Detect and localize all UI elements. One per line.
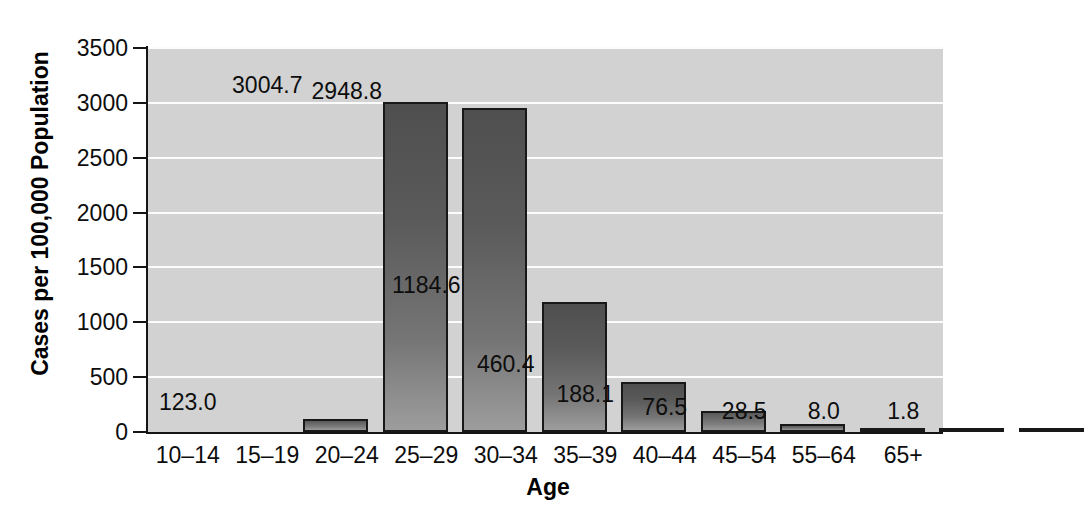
y-axis-tick-label: 3500 <box>44 37 128 60</box>
bar <box>462 108 527 432</box>
y-axis-tick-labels: 0500100015002000250030003500 <box>36 0 128 523</box>
y-axis-tick-label: 1000 <box>44 311 128 334</box>
y-axis-tick <box>133 376 146 378</box>
bar-value-label: 2948.8 <box>312 80 382 103</box>
y-axis-tick <box>133 321 146 323</box>
x-axis-category-label: 55–64 <box>792 444 856 467</box>
y-axis-tick-label: 500 <box>44 366 128 389</box>
bar <box>303 419 368 432</box>
y-axis-tick <box>133 47 146 49</box>
y-axis-tick <box>133 266 146 268</box>
x-axis-category-label: 40–44 <box>633 444 697 467</box>
x-axis-category-label: 20–24 <box>315 444 379 467</box>
gridline <box>148 47 943 49</box>
bar-value-label: 188.1 <box>556 383 614 406</box>
y-axis-tick-label: 2500 <box>44 146 128 169</box>
bar <box>780 424 845 432</box>
x-axis-category-label: 10–14 <box>156 444 220 467</box>
y-axis-tick-label: 1500 <box>44 256 128 279</box>
bar <box>939 428 1004 432</box>
y-axis-tick <box>133 431 146 433</box>
bar-value-label: 123.0 <box>159 391 217 414</box>
y-axis-tick-label: 2000 <box>44 201 128 224</box>
bar-value-label: 1.8 <box>887 400 919 423</box>
y-axis-tick-label: 3000 <box>44 91 128 114</box>
bar <box>1019 428 1084 432</box>
x-axis-title: Age <box>448 474 648 501</box>
gridline <box>148 102 943 104</box>
bar <box>383 102 448 432</box>
y-axis-tick-label: 0 <box>44 421 128 444</box>
gridline <box>148 266 943 268</box>
y-axis-tick <box>133 157 146 159</box>
bar-value-label: 3004.7 <box>232 74 302 97</box>
x-axis-category-label: 15–19 <box>235 444 299 467</box>
bar-value-label: 1184.6 <box>392 274 461 297</box>
gridline <box>148 212 943 214</box>
x-axis-category-label: 25–29 <box>394 444 458 467</box>
x-axis-category-label: 65+ <box>884 444 923 467</box>
bar-value-label: 28.5 <box>722 400 767 423</box>
y-axis-tick <box>133 212 146 214</box>
bar <box>542 302 607 432</box>
x-axis-category-label: 45–54 <box>712 444 776 467</box>
x-axis-category-label: 35–39 <box>553 444 617 467</box>
y-axis-tick <box>133 102 146 104</box>
x-axis-category-label: 30–34 <box>474 444 538 467</box>
plot-area <box>148 48 943 432</box>
bar-value-label: 76.5 <box>642 396 687 419</box>
gridline <box>148 157 943 159</box>
y-axis-title-wrapper: Cases per 100,000 Population <box>0 0 1 523</box>
bar-value-label: 8.0 <box>808 400 840 423</box>
y-axis-line <box>146 46 148 434</box>
x-axis-line <box>146 432 943 434</box>
bar-value-label: 460.4 <box>477 353 535 376</box>
